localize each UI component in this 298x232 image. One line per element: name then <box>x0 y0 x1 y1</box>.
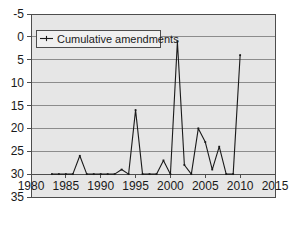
data-point-2010 <box>239 54 241 56</box>
y-tick-label: -5 <box>13 7 24 21</box>
data-point-1987 <box>79 155 81 157</box>
x-tick-label: 1980 <box>18 179 45 193</box>
data-point-1988 <box>86 173 88 175</box>
data-point-1989 <box>93 173 95 175</box>
y-tick-label: 25 <box>11 144 25 158</box>
y-axis: 35302520151050-5 <box>11 7 31 204</box>
data-point-2008 <box>225 173 227 175</box>
data-point-1999 <box>163 160 165 162</box>
data-point-1992 <box>114 173 116 175</box>
data-point-2004 <box>197 127 199 129</box>
legend: Cumulative amendments <box>36 30 179 47</box>
data-point-2000 <box>170 173 172 175</box>
data-point-1983 <box>51 173 53 175</box>
data-point-1984 <box>58 173 60 175</box>
y-tick-label: 5 <box>17 53 24 67</box>
chart-container: 35302520151050-5198019851990199520002005… <box>0 0 298 232</box>
x-tick-label: 2000 <box>157 179 184 193</box>
data-point-1993 <box>121 169 123 171</box>
data-point-2003 <box>190 173 192 175</box>
y-tick-label: 10 <box>11 76 25 90</box>
data-point-1997 <box>149 173 151 175</box>
x-tick-label: 2005 <box>192 179 219 193</box>
x-tick-label: 1990 <box>87 179 114 193</box>
data-point-2007 <box>218 146 220 148</box>
data-point-1990 <box>100 173 102 175</box>
data-point-2009 <box>232 173 234 175</box>
data-point-2006 <box>211 169 213 171</box>
data-point-1994 <box>128 173 130 175</box>
x-tick-label: 1985 <box>53 179 80 193</box>
data-point-1998 <box>156 173 158 175</box>
cumulative-amendments-line-chart: 35302520151050-5198019851990199520002005… <box>0 0 298 232</box>
data-point-1995 <box>135 109 137 111</box>
data-point-1996 <box>142 173 144 175</box>
legend-label: Cumulative amendments <box>57 33 179 45</box>
data-point-1986 <box>72 173 74 175</box>
data-point-2002 <box>183 164 185 166</box>
y-tick-label: 20 <box>11 121 25 135</box>
x-tick-label: 2015 <box>262 179 289 193</box>
x-tick-label: 1995 <box>122 179 149 193</box>
data-point-2005 <box>204 141 206 143</box>
data-point-1991 <box>107 173 109 175</box>
y-tick-label: 15 <box>11 99 25 113</box>
data-point-1985 <box>65 173 67 175</box>
y-tick-label: 0 <box>17 30 24 44</box>
x-tick-label: 2010 <box>227 179 254 193</box>
